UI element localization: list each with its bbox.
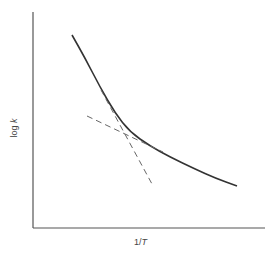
x-axis-label: 1/T <box>134 237 147 247</box>
shallow-tangent-dashed-line <box>87 116 163 152</box>
log-k-curve <box>72 35 237 186</box>
arrhenius-plot <box>0 0 278 255</box>
steep-tangent-dashed-line <box>101 90 152 184</box>
y-axis-label: log k <box>9 118 19 137</box>
